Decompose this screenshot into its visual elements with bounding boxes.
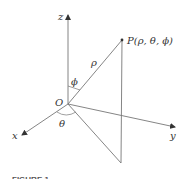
vertical-projection bbox=[121, 40, 122, 163]
x-axis-label: x bbox=[12, 130, 18, 141]
rho-segment bbox=[68, 40, 122, 104]
point-label: P(ρ, θ, ϕ) bbox=[126, 35, 173, 46]
rho-label: ρ bbox=[90, 57, 97, 68]
origin-label: O bbox=[55, 97, 63, 108]
z-axis-label: z bbox=[57, 11, 64, 22]
spherical-coordinates-diagram: z y x O P(ρ, θ, ϕ) ρ ϕ θ FIGURE 1 bbox=[0, 0, 186, 179]
phi-label: ϕ bbox=[71, 76, 78, 87]
point-p bbox=[121, 39, 124, 42]
theta-label: θ bbox=[59, 118, 65, 129]
theta-arc bbox=[57, 112, 76, 115]
figure-caption: FIGURE 1 bbox=[12, 175, 49, 179]
y-axis-label: y bbox=[169, 130, 176, 141]
xy-projection bbox=[68, 104, 121, 163]
